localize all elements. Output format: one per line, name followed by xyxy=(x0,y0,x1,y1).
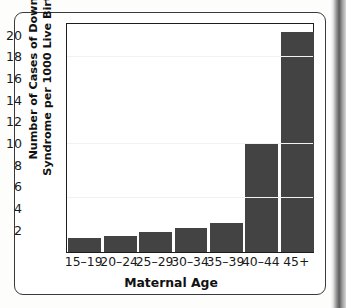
y-axis-title: Number of Cases of Down Syndrome per 100… xyxy=(27,0,54,179)
x-tick-label: 45+ xyxy=(271,256,322,268)
y-tick-label: 6 xyxy=(0,181,22,194)
scanned-page-background: Number of Cases of Down Syndrome per 100… xyxy=(0,0,346,308)
scan-band xyxy=(67,143,313,144)
y-tick-label: 12 xyxy=(0,116,22,129)
bar xyxy=(175,228,208,252)
x-axis-title: Maternal Age xyxy=(15,275,327,290)
y-tick-label: 10 xyxy=(0,138,22,151)
y-tick-label: 8 xyxy=(0,160,22,173)
bar xyxy=(139,232,172,252)
y-tick-label: 20 xyxy=(0,30,22,43)
bar xyxy=(210,223,243,252)
y-axis-title-line-2: Syndrome per 1000 Live Births xyxy=(41,0,55,179)
bar xyxy=(104,236,137,252)
y-tick-label: 14 xyxy=(0,95,22,108)
scan-band xyxy=(67,56,313,57)
page-gutter-shadow xyxy=(330,0,346,308)
y-tick-label: 2 xyxy=(0,225,22,238)
figure-frame: Number of Cases of Down Syndrome per 100… xyxy=(14,12,326,295)
scan-band xyxy=(67,197,313,198)
y-tick-label: 18 xyxy=(0,51,22,64)
y-axis-title-line-1: Number of Cases of Down xyxy=(27,0,41,179)
plot-area xyxy=(66,23,314,253)
y-tick-label: 4 xyxy=(0,203,22,216)
bar xyxy=(68,238,101,252)
y-tick-label: 16 xyxy=(0,73,22,86)
